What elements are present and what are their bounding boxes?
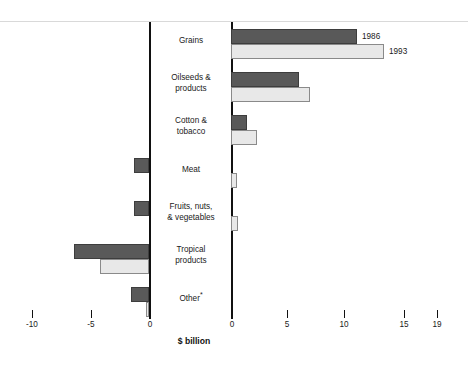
plot-area: 1986 1993 Grains Oilseeds & products Cot…: [0, 22, 468, 310]
category-label-other-line1: Other*: [151, 294, 231, 305]
category-label-fruits-line1: Fruits, nuts,: [151, 202, 231, 213]
annotation-1986: 1986: [362, 29, 380, 44]
tick-label-right-zero: 0: [217, 319, 247, 330]
x-axis-title-text: $ billion: [178, 336, 210, 346]
category-label-fruits-line2: & vegetables: [151, 213, 231, 224]
bar-other-1986: [131, 287, 149, 302]
bar-cotton-1986: [231, 115, 247, 130]
category-label-cotton-line2: tobacco: [151, 127, 231, 138]
category-label-grains: Grains: [151, 36, 231, 47]
right-zero-axis-line: [231, 22, 233, 310]
bar-tropical-1986: [74, 244, 149, 259]
category-label-tropical-line2: products: [151, 256, 231, 267]
bar-fruits-1993: [231, 216, 238, 231]
x-axis-title: $ billion: [0, 336, 468, 346]
bar-grains-1986: [231, 29, 357, 44]
bar-meat-1993: [231, 173, 237, 188]
tick-label-left-zero: 0: [135, 319, 165, 330]
category-label-cotton-line1: Cotton &: [151, 116, 231, 127]
bar-oilseeds-1986: [231, 72, 299, 87]
tick-label-10: 10: [329, 319, 359, 330]
tick-label-neg10: -10: [17, 319, 47, 330]
bar-chart: 1986 1993 Grains Oilseeds & products Cot…: [0, 0, 468, 370]
category-label-oilseeds-line1: Oilseeds &: [151, 73, 231, 84]
tick-label-5: 5: [272, 319, 302, 330]
category-label-meat: Meat: [151, 165, 231, 176]
category-label-oilseeds: Oilseeds & products: [151, 73, 231, 94]
tick-label-19: 19: [422, 319, 452, 330]
bar-fruits-1986: [134, 201, 149, 216]
category-label-tropical: Tropical products: [151, 245, 231, 266]
tick-mark-neg5: [91, 310, 92, 318]
bar-oilseeds-1993: [231, 87, 310, 102]
tick-label-15: 15: [389, 319, 419, 330]
tick-mark-5: [287, 310, 288, 318]
category-label-grains-line1: Grains: [151, 36, 231, 47]
bar-grains-1993: [231, 44, 384, 59]
tick-mark-15: [404, 310, 405, 318]
tick-label-neg5: -5: [76, 319, 106, 330]
tick-mark-left-zero: [149, 310, 151, 319]
category-label-other: Other*: [151, 294, 231, 305]
tick-mark-right-zero: [231, 310, 233, 319]
category-label-oilseeds-line2: products: [151, 84, 231, 95]
tick-mark-19: [437, 310, 438, 318]
category-label-cotton: Cotton & tobacco: [151, 116, 231, 137]
bar-tropical-1993: [100, 259, 149, 274]
category-label-meat-line1: Meat: [151, 165, 231, 176]
category-label-other-text: Other: [179, 294, 199, 303]
category-label-fruits: Fruits, nuts, & vegetables: [151, 202, 231, 223]
category-label-tropical-line1: Tropical: [151, 245, 231, 256]
annotation-1993: 1993: [389, 44, 407, 59]
footnote-marker: *: [200, 291, 203, 298]
bar-cotton-1993: [231, 130, 257, 145]
tick-mark-neg10: [32, 310, 33, 318]
bar-meat-1986: [134, 158, 149, 173]
tick-mark-10: [344, 310, 345, 318]
